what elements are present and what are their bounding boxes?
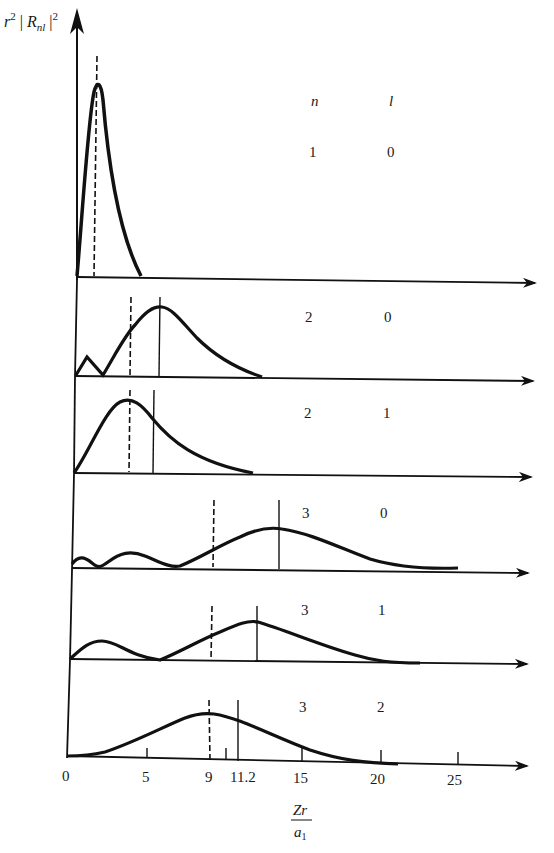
panel-5-l: 1 [378,602,386,618]
panel-3-n: 2 [304,405,312,421]
x-axis-ticks [147,748,458,765]
tick-9: 9 [205,769,213,785]
radial-probability-chart: r2 | Rnl |2 [0,0,554,853]
panel-6-l: 2 [377,699,385,715]
panel-6-n: 3 [299,699,307,715]
tick-0: 0 [62,768,70,784]
tick-11-2: 11.2 [230,769,256,785]
x-axis-panel-5 [70,659,527,664]
curve-n3-l0 [72,500,458,569]
x-axis-panel-1 [77,277,535,283]
tick-15: 15 [293,770,308,786]
curve-n3-l1 [70,606,420,663]
x-axis-panel-2 [75,376,533,381]
panel-1-n: 1 [309,144,317,160]
legend-header-l: l [389,93,393,109]
x-axis-panel-3 [74,473,531,477]
svg-text:a1: a1 [294,824,307,842]
x-tick-labels: 0 5 9 11.2 15 20 25 [62,768,462,788]
panel-5-n: 3 [301,602,309,618]
panel-4-n: 3 [302,505,310,521]
panel-3-l: 1 [383,405,391,421]
panel-2-l: 0 [384,309,392,325]
tick-5: 5 [142,769,150,785]
panel-labels: 1 0 2 0 2 1 3 0 3 1 3 2 [299,144,395,715]
y-axis-label: r2 | Rnl |2 [4,10,58,33]
tick-20: 20 [370,771,385,787]
curve-n2-l1 [74,390,253,473]
x-axis-label: Zr a1 [291,802,312,842]
legend-header-n: n [311,93,319,109]
x-axis-panel-4 [72,568,528,573]
panel-1-l: 0 [387,144,395,160]
panel-4-l: 0 [380,505,388,521]
tick-25: 25 [447,772,462,788]
curve-n2-l0 [76,297,262,377]
svg-text:Zr: Zr [293,802,307,818]
panel-2-n: 2 [305,309,313,325]
curve-n3-l2 [67,700,398,764]
curve-n1-l0 [77,56,141,276]
